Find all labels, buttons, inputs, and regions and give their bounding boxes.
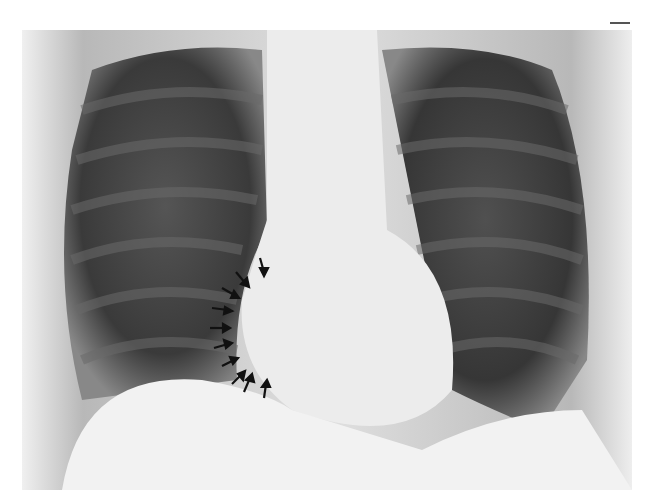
xray-figure — [0, 0, 653, 503]
xray-drawing — [22, 30, 632, 490]
corner-mark — [610, 22, 630, 24]
chest-xray — [22, 30, 632, 490]
